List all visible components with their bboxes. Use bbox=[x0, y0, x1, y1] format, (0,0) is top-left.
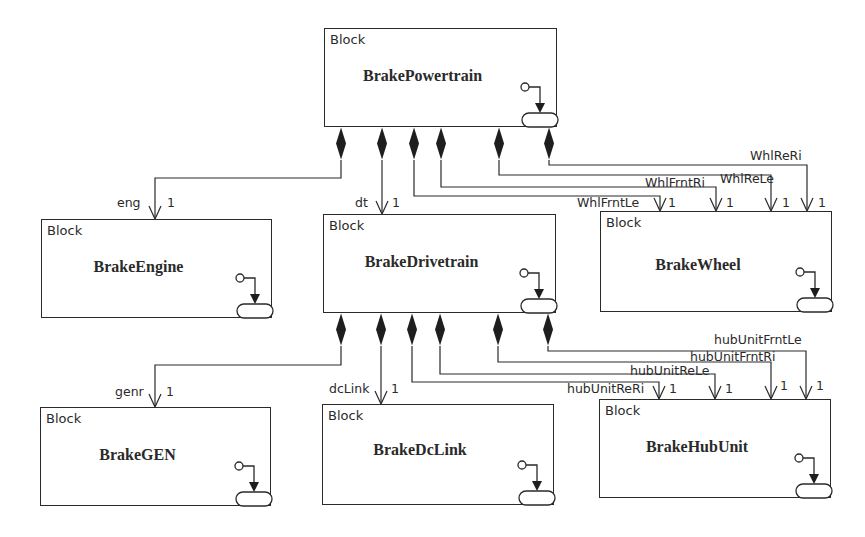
role-label-hubunitfrntle: hubUnitFrntLe bbox=[714, 333, 802, 347]
connector-eng bbox=[155, 160, 341, 218]
role-label-hubunitfrntri: hubUnitFrntRi bbox=[690, 350, 775, 364]
block-brake-gen[interactable]: Block BrakeGEN bbox=[40, 407, 271, 506]
role-label-dt: dt bbox=[355, 196, 368, 210]
role-label-hubunitrele: hubUnitReLe bbox=[630, 364, 709, 378]
decomposition-icon bbox=[516, 455, 560, 507]
block-brake-wheel[interactable]: Block BrakeWheel bbox=[600, 211, 832, 312]
block-brake-powertrain[interactable]: Block BrakePowertrain bbox=[324, 28, 557, 127]
multiplicity-genr: 1 bbox=[166, 385, 174, 399]
block-stereotype: Block bbox=[605, 403, 640, 418]
multiplicity-whlreri: 1 bbox=[818, 196, 826, 210]
block-name: BrakeGEN bbox=[41, 446, 234, 464]
decomposition-icon bbox=[519, 77, 563, 129]
block-stereotype: Block bbox=[46, 411, 81, 426]
block-name: BrakeEngine bbox=[42, 258, 235, 276]
multiplicity-hubunitfrntri: 1 bbox=[780, 379, 788, 393]
block-stereotype: Block bbox=[47, 223, 82, 238]
block-definition-diagram: eng 1 dt 1 WhlFrntLe 1 WhlFrntRi 1 WhlRe… bbox=[0, 0, 865, 537]
block-stereotype: Block bbox=[330, 32, 365, 47]
multiplicity-whlfrntri: 1 bbox=[726, 196, 734, 210]
block-stereotype: Block bbox=[606, 215, 641, 230]
multiplicity-hubunitrele: 1 bbox=[725, 382, 733, 396]
decomposition-icon bbox=[794, 262, 838, 314]
decomposition-icon bbox=[234, 268, 278, 320]
multiplicity-eng: 1 bbox=[167, 196, 175, 210]
multiplicity-dclink: 1 bbox=[391, 382, 399, 396]
block-stereotype: Block bbox=[328, 408, 363, 423]
block-brake-engine[interactable]: Block BrakeEngine bbox=[41, 219, 272, 318]
block-brake-drivetrain[interactable]: Block BrakeDrivetrain bbox=[323, 214, 556, 313]
role-label-whlrele: WhlReLe bbox=[720, 172, 774, 186]
block-name: BrakeDcLink bbox=[323, 441, 517, 459]
decomposition-icon bbox=[233, 456, 277, 508]
multiplicity-hubunitfrntle: 1 bbox=[816, 379, 824, 393]
role-label-whlfrntri: WhlFrntRi bbox=[645, 176, 705, 190]
block-name: BrakeDrivetrain bbox=[324, 253, 519, 271]
decomposition-icon bbox=[793, 448, 837, 500]
role-label-dclink: dcLink bbox=[329, 382, 369, 396]
multiplicity-hubunitreri: 1 bbox=[669, 382, 677, 396]
block-stereotype: Block bbox=[329, 218, 364, 233]
block-name: BrakePowertrain bbox=[345, 67, 500, 85]
block-name: BrakeHubUnit bbox=[600, 438, 794, 456]
role-label-eng: eng bbox=[117, 196, 141, 210]
multiplicity-dt: 1 bbox=[392, 196, 400, 210]
block-brake-dclink[interactable]: Block BrakeDcLink bbox=[322, 404, 554, 505]
role-label-whlreri: WhlReRi bbox=[750, 149, 802, 163]
multiplicity-whlfrntle: 1 bbox=[668, 196, 676, 210]
block-name: BrakeWheel bbox=[601, 256, 795, 274]
role-label-hubunitreri: hubUnitReRi bbox=[567, 382, 644, 396]
role-label-whlfrntle: WhlFrntLe bbox=[577, 196, 639, 210]
block-brake-hubunit[interactable]: Block BrakeHubUnit bbox=[599, 399, 831, 498]
multiplicity-whlrele: 1 bbox=[782, 196, 790, 210]
connector-genr bbox=[155, 346, 341, 406]
role-label-genr: genr bbox=[115, 385, 144, 399]
decomposition-icon bbox=[518, 263, 562, 315]
